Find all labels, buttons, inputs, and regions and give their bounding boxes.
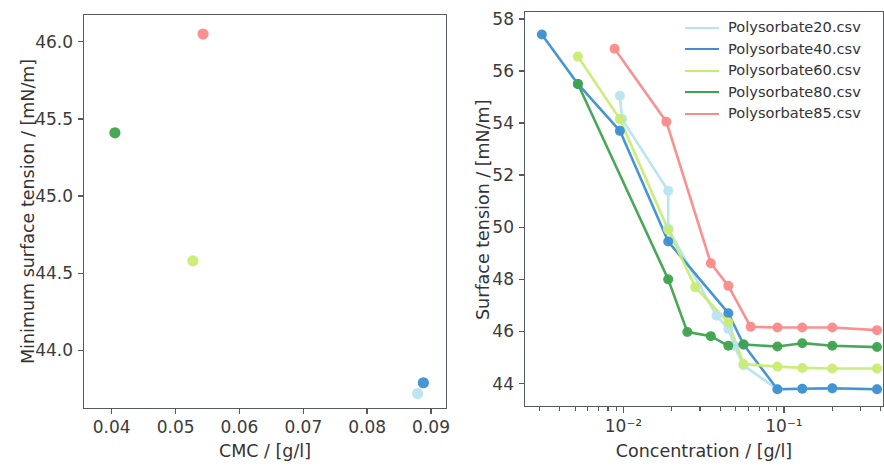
left-y-axis-title: Minimum surface tension / [mN/m] [20,59,38,364]
right-x-minor-tickmark [559,407,560,411]
series-marker-polysorbate80 [682,327,692,337]
series-marker-polysorbate85 [746,322,756,332]
legend-item-polysorbate20[interactable]: Polysorbate20.csv [685,17,861,39]
legend-item-polysorbate40[interactable]: Polysorbate40.csv [685,39,861,61]
series-marker-polysorbate40 [723,308,733,318]
right-x-minor-tickmark [776,407,777,411]
right-x-minor-tickmark [575,407,576,411]
series-marker-polysorbate20 [663,186,673,196]
legend-color-swatch-icon [685,70,719,72]
series-marker-polysorbate40 [663,237,673,247]
legend-item-label: Polysorbate60.csv [728,63,861,78]
series-marker-polysorbate85 [772,323,782,333]
series-marker-polysorbate60 [723,317,733,327]
legend-color-swatch-icon [685,48,719,50]
series-marker-polysorbate80 [872,342,882,352]
right-x-minor-tickmark [539,407,540,411]
series-marker-polysorbate60 [663,225,673,235]
right-y-tickmark [519,227,524,228]
right-x-tick-label: 10⁻¹ [765,418,802,435]
right-x-axis-title: Concentration / [g/l] [616,443,792,461]
left-x-tick-label: 0.05 [157,419,195,436]
series-marker-polysorbate80 [772,342,782,352]
right-y-tick-label: 46 [455,323,514,340]
series-marker-polysorbate60 [827,363,837,373]
right-x-minor-tickmark [832,407,833,411]
left-y-tickmark [78,118,83,119]
series-marker-polysorbate80 [827,341,837,351]
series-marker-polysorbate60 [739,359,749,369]
left-x-tickmark [303,409,304,414]
series-marker-polysorbate60 [690,282,700,292]
left-y-tickmark [78,41,83,42]
left-y-tickmark [78,350,83,351]
series-marker-polysorbate85 [610,44,620,54]
series-marker-polysorbate20 [712,311,722,321]
left-y-tick-label: 46.0 [0,33,73,50]
left-chart-panel: 0.040.050.060.070.080.0944.044.545.045.5… [0,0,455,475]
legend-color-swatch-icon [685,91,719,93]
series-marker-polysorbate60 [772,362,782,372]
scatter-point-polysorbate80 [109,127,120,138]
right-y-tickmark [519,122,524,123]
right-x-major-tickmark [783,407,784,413]
right-y-tickmark [519,18,524,19]
legend-item-polysorbate60[interactable]: Polysorbate60.csv [685,60,861,82]
right-x-minor-tickmark [598,407,599,411]
series-marker-polysorbate60 [797,363,807,373]
series-marker-polysorbate60 [615,114,625,124]
left-x-tickmark [111,409,112,414]
legend-item-polysorbate80[interactable]: Polysorbate80.csv [685,82,861,104]
right-y-tickmark [519,279,524,280]
right-x-minor-tickmark [735,407,736,411]
series-marker-polysorbate60 [573,52,583,62]
right-x-minor-tickmark [671,407,672,411]
legend-item-label: Polysorbate40.csv [728,42,861,57]
right-x-minor-tickmark [748,407,749,411]
right-x-minor-tickmark [759,407,760,411]
right-y-axis-title: Surface tension / [mN/m] [475,99,493,320]
legend-color-swatch-icon [685,27,719,29]
series-marker-polysorbate40 [772,384,782,394]
series-marker-polysorbate80 [723,341,733,351]
right-y-tick-label: 44 [455,375,514,392]
left-x-tick-label: 0.07 [284,419,322,436]
left-x-tickmark [430,409,431,414]
left-y-tickmark [78,273,83,274]
right-y-tickmark [519,174,524,175]
legend-color-swatch-icon [685,113,719,115]
series-marker-polysorbate80 [573,79,583,89]
series-marker-polysorbate40 [615,126,625,136]
right-y-tickmark [519,70,524,71]
legend-item-label: Polysorbate85.csv [728,106,861,121]
series-marker-polysorbate85 [827,323,837,333]
right-x-tick-label: 10⁻² [605,418,642,435]
figure-canvas: 0.040.050.060.070.080.0944.044.545.045.5… [0,0,884,475]
right-x-minor-tickmark [768,407,769,411]
right-y-tickmark [519,331,524,332]
left-x-tick-label: 0.06 [221,419,259,436]
right-x-minor-tickmark [616,407,617,411]
left-scatter-layer [0,0,455,475]
left-x-tickmark [175,409,176,414]
series-marker-polysorbate40 [827,383,837,393]
right-x-minor-tickmark [587,407,588,411]
right-y-tick-label: 56 [455,62,514,79]
right-x-major-tickmark [623,407,624,413]
right-x-minor-tickmark [699,407,700,411]
right-y-tickmark [519,383,524,384]
series-marker-polysorbate85 [706,258,716,268]
legend-item-label: Polysorbate80.csv [728,85,861,100]
scatter-point-polysorbate85 [197,28,208,39]
left-x-tick-label: 0.04 [93,419,131,436]
left-y-tickmark [78,195,83,196]
series-marker-polysorbate85 [872,325,882,335]
scatter-point-polysorbate60 [187,255,198,266]
scatter-point-polysorbate20 [412,388,423,399]
legend-item-polysorbate85[interactable]: Polysorbate85.csv [685,103,861,125]
series-marker-polysorbate80 [797,338,807,348]
right-chart-panel: 10⁻²10⁻¹4446485052545658 Concentration /… [455,0,884,475]
left-x-tickmark [366,409,367,414]
left-x-tick-label: 0.09 [412,419,450,436]
series-marker-polysorbate85 [797,323,807,333]
